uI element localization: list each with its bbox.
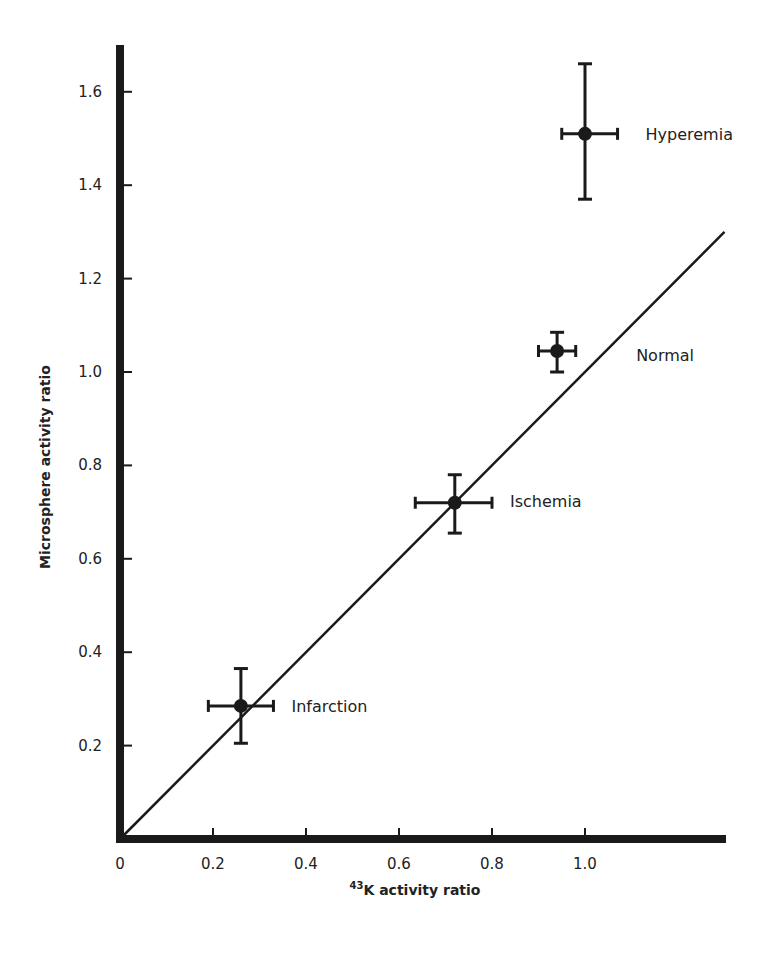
axes (116, 45, 726, 843)
identity-line (120, 232, 725, 839)
data-point-ischemia: Ischemia (415, 475, 581, 533)
y-tick-label: 0.6 (78, 550, 102, 568)
point-label: Normal (636, 346, 694, 365)
x-axis-title-main: K activity ratio (363, 882, 480, 898)
x-tick-label: 0.6 (387, 855, 411, 873)
data-marker (578, 127, 592, 141)
y-tick-label: 0.2 (78, 737, 102, 755)
point-label: Ischemia (510, 492, 582, 511)
identity-line (120, 232, 725, 839)
data-points: InfarctionIschemiaNormalHyperemia (208, 64, 733, 743)
y-tick-label: 1.0 (78, 363, 102, 381)
axis-ticks: 00.20.40.60.81.00.20.40.60.81.01.21.41.6 (78, 83, 597, 873)
y-tick-label: 0.8 (78, 456, 102, 474)
data-point-normal: Normal (539, 332, 695, 372)
x-tick-label: 0.8 (480, 855, 504, 873)
y-tick-label: 0.4 (78, 643, 102, 661)
x-axis-title-superscript: 43 (350, 880, 364, 891)
scatter-chart: 00.20.40.60.81.00.20.40.60.81.01.21.41.6… (0, 0, 767, 957)
data-marker (448, 496, 462, 510)
y-tick-label: 1.2 (78, 270, 102, 288)
x-tick-label: 1.0 (573, 855, 597, 873)
data-marker (234, 699, 248, 713)
y-axis-title: Microsphere activity ratio (37, 365, 53, 569)
x-tick-label: 0 (115, 855, 125, 873)
x-tick-label: 0.4 (294, 855, 318, 873)
y-tick-label: 1.4 (78, 176, 102, 194)
y-tick-label: 1.6 (78, 83, 102, 101)
x-axis-title: 43K activity ratio (350, 880, 481, 898)
data-marker (550, 344, 564, 358)
point-label: Hyperemia (646, 125, 733, 144)
point-label: Infarction (291, 697, 367, 716)
data-point-infarction: Infarction (208, 669, 367, 744)
x-tick-label: 0.2 (201, 855, 225, 873)
data-point-hyperemia: Hyperemia (562, 64, 733, 199)
